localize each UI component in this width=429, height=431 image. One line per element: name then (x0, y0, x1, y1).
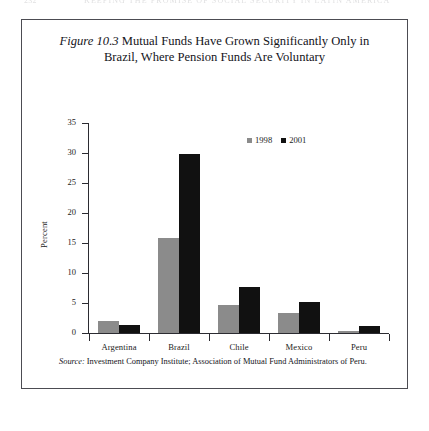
y-tick (82, 123, 89, 124)
page-folio: 232 (24, 0, 37, 5)
bar-brazil-1998 (158, 238, 179, 333)
y-tick (82, 273, 89, 274)
y-tick (82, 243, 89, 244)
figure-title-line1: Mutual Funds Have Grown Significantly On… (122, 34, 370, 48)
bars-layer (89, 123, 389, 333)
page-bottom-crop (0, 402, 429, 410)
bar-brazil-2001 (179, 154, 200, 333)
page-running-head: 232 KEEPING THE PROMISE OF SOCIAL SECURI… (0, 0, 429, 10)
y-tick (82, 153, 89, 154)
legend-swatch-1998 (247, 138, 252, 143)
bar-mexico-1998 (278, 313, 299, 333)
figure-title-line2: Brazil, Where Pension Funds Are Voluntar… (104, 50, 325, 64)
chart-legend: 1998 2001 (247, 135, 306, 145)
source-label: Source: (59, 357, 85, 366)
y-tick (82, 213, 89, 214)
bar-argentina-2001 (119, 325, 140, 333)
category-label-brazil: Brazil (149, 342, 209, 352)
bar-peru-1998 (338, 331, 359, 333)
plot-area: Percent 05101520253035 ArgentinaBrazilCh… (22, 80, 409, 352)
figure-box: Figure 10.3 Mutual Funds Have Grown Sign… (21, 19, 408, 389)
y-tick (82, 303, 89, 304)
category-label-peru: Peru (329, 342, 389, 352)
legend-item-2001: 2001 (281, 135, 306, 145)
y-tick-label: 5 (36, 297, 76, 307)
bar-peru-2001 (359, 326, 380, 333)
figure-label: Figure 10.3 (60, 34, 119, 48)
legend-swatch-2001 (281, 138, 286, 143)
figure-title: Figure 10.3 Mutual Funds Have Grown Sign… (36, 34, 393, 65)
bar-mexico-2001 (299, 302, 320, 333)
x-tick (89, 334, 90, 341)
x-axis-line (88, 333, 389, 334)
x-tick (329, 334, 330, 341)
x-tick (269, 334, 270, 341)
x-tick (149, 334, 150, 341)
y-tick-label: 25 (36, 177, 76, 187)
y-tick (82, 183, 89, 184)
legend-label-2001: 2001 (289, 135, 306, 145)
bar-argentina-1998 (98, 321, 119, 333)
y-tick-label: 20 (36, 207, 76, 217)
source-text: Investment Company Institute; Associatio… (87, 357, 367, 366)
running-head-text: KEEPING THE PROMISE OF SOCIAL SECURITY I… (84, 0, 390, 5)
legend-item-1998: 1998 (247, 135, 272, 145)
x-tick (389, 334, 390, 341)
category-label-mexico: Mexico (269, 342, 329, 352)
y-tick-label: 10 (36, 267, 76, 277)
bar-chile-2001 (239, 287, 260, 333)
legend-label-1998: 1998 (255, 135, 272, 145)
y-tick-label: 30 (36, 147, 76, 157)
figure-source-note: Source: Investment Company Institute; As… (41, 356, 393, 367)
y-tick-label: 35 (36, 117, 76, 127)
y-tick (82, 333, 89, 334)
bar-chile-1998 (218, 305, 239, 333)
category-label-argentina: Argentina (89, 342, 149, 352)
category-label-chile: Chile (209, 342, 269, 352)
y-tick-label: 15 (36, 237, 76, 247)
x-tick (209, 334, 210, 341)
y-tick-label: 0 (36, 327, 76, 337)
